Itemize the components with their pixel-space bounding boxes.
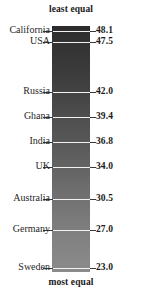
value-label: 27.0 <box>96 224 113 234</box>
gradient-colorbar <box>52 26 90 272</box>
tick-line <box>52 230 90 232</box>
tick-line <box>52 42 90 44</box>
category-label: Russia <box>0 86 50 96</box>
value-label: 23.0 <box>96 262 113 272</box>
category-label: Ghana <box>0 111 50 121</box>
category-label: UK <box>0 161 50 171</box>
category-label: Sweden <box>0 262 50 272</box>
top-caption: least equal <box>0 4 142 14</box>
value-label: 30.5 <box>96 193 113 203</box>
inequality-colorbar-figure: least equal California 48.1 USA 47.5 Rus… <box>0 0 142 294</box>
category-label: Australia <box>0 193 50 203</box>
category-label: India <box>0 136 50 146</box>
value-label: 36.8 <box>96 136 113 146</box>
tick-line <box>52 199 90 201</box>
value-label: 34.0 <box>96 161 113 171</box>
bottom-caption: most equal <box>0 277 142 287</box>
category-label: California <box>0 25 50 35</box>
value-label: 42.0 <box>96 86 113 96</box>
value-label: 47.5 <box>96 36 113 46</box>
tick-line <box>52 31 90 33</box>
category-label: Germany <box>0 224 50 234</box>
value-label: 48.1 <box>96 25 113 35</box>
tick-line <box>52 268 90 270</box>
category-label: USA <box>0 36 50 46</box>
tick-line <box>52 142 90 144</box>
tick-line <box>52 167 90 169</box>
tick-line <box>52 117 90 119</box>
value-label: 39.4 <box>96 111 113 121</box>
tick-line <box>52 92 90 94</box>
